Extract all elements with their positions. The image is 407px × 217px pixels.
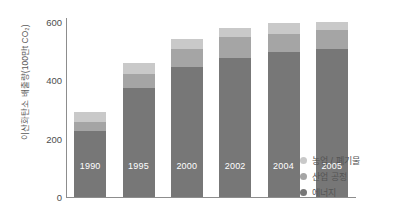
bar-2004[interactable]: 2004	[268, 23, 300, 197]
bar-segment-industry-2000	[171, 49, 203, 67]
bar-segment-agriculture-2005	[316, 22, 348, 30]
bar-label-2002: 2002	[219, 161, 251, 171]
bar-label-2000: 2000	[171, 161, 203, 171]
legend-swatch-agriculture-icon	[300, 157, 307, 164]
stacked-bar-chart: 이산화탄소 배출량(100만t CO₂) 600 400 200 0 19901…	[0, 0, 407, 217]
legend-item-agriculture[interactable]: 농업 / 폐기물	[300, 153, 405, 168]
bar-label-1995: 1995	[123, 161, 155, 171]
y-tick-0: 0	[22, 192, 62, 203]
bar-segment-energy-2004	[268, 52, 300, 197]
bar-segment-industry-2005	[316, 30, 348, 49]
legend-swatch-industry-icon	[300, 173, 307, 180]
bar-label-2004: 2004	[268, 161, 300, 171]
y-tick-200: 200	[22, 134, 62, 145]
chart-legend: 농업 / 폐기물 산업 공정 에너지	[300, 153, 405, 201]
legend-item-industry[interactable]: 산업 공정	[300, 169, 405, 184]
bar-segment-industry-2004	[268, 34, 300, 52]
legend-swatch-energy-icon	[300, 189, 307, 196]
bar-segment-agriculture-1995	[123, 63, 155, 74]
bar-1995[interactable]: 1995	[123, 63, 155, 198]
legend-item-energy[interactable]: 에너지	[300, 185, 405, 200]
bar-segment-industry-1990	[74, 122, 106, 131]
bar-segment-energy-2002	[219, 58, 251, 197]
bar-2002[interactable]: 2002	[219, 28, 251, 197]
bar-segment-industry-2002	[219, 37, 251, 58]
bar-segment-agriculture-1990	[74, 112, 106, 121]
bar-segment-agriculture-2002	[219, 28, 251, 37]
y-tick-400: 400	[22, 75, 62, 86]
bar-segment-agriculture-2004	[268, 23, 300, 33]
legend-label-energy: 에너지	[312, 186, 336, 199]
y-axis-tick-labels: 600 400 200 0	[20, 0, 62, 217]
bar-segment-energy-1995	[123, 88, 155, 197]
bar-segment-agriculture-2000	[171, 39, 203, 49]
y-tick-600: 600	[22, 17, 62, 28]
bar-segment-industry-1995	[123, 74, 155, 88]
legend-label-agriculture: 농업 / 폐기물	[312, 154, 360, 167]
bar-segment-energy-2000	[171, 67, 203, 197]
bar-label-1990: 1990	[74, 161, 106, 171]
bar-1990[interactable]: 1990	[74, 112, 106, 197]
legend-label-industry: 산업 공정	[312, 170, 347, 183]
bar-2000[interactable]: 2000	[171, 39, 203, 197]
